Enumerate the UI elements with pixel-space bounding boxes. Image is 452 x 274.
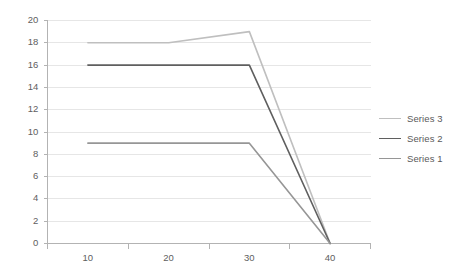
legend-label: Series 3 <box>407 113 443 124</box>
series-line-series-3 <box>88 32 330 244</box>
y-axis-tick-label: 18 <box>15 36 39 47</box>
x-axis-ticks <box>48 244 371 249</box>
y-axis-tick-label: 20 <box>15 14 39 25</box>
y-axis-tick-label: 10 <box>15 126 39 137</box>
y-axis-tick-label: 16 <box>15 59 39 70</box>
y-axis-tick-label: 0 <box>15 237 39 248</box>
x-axis-tick-label: 30 <box>229 252 269 263</box>
x-axis-tick-label: 10 <box>68 252 108 263</box>
legend-swatch-icon <box>379 118 401 119</box>
legend-item-series-1[interactable]: Series 1 <box>379 148 449 168</box>
series-lines <box>88 32 330 244</box>
y-axis-ticks <box>44 21 48 244</box>
y-axis-tick-label: 8 <box>15 148 39 159</box>
legend-swatch-icon <box>379 158 401 159</box>
x-axis-tick-label: 40 <box>310 252 350 263</box>
legend-label: Series 1 <box>407 153 443 164</box>
y-axis-tick-label: 2 <box>15 215 39 226</box>
y-axis-tick-label: 6 <box>15 170 39 181</box>
y-axis-tick-label: 14 <box>15 81 39 92</box>
line-chart: 02468101214161820 10203040 Series 3Serie… <box>0 0 452 274</box>
legend-item-series-3[interactable]: Series 3 <box>379 108 449 128</box>
legend-swatch-icon <box>379 138 401 139</box>
y-axis-tick-label: 4 <box>15 192 39 203</box>
y-axis-tick-label: 12 <box>15 103 39 114</box>
series-line-series-1 <box>88 143 330 243</box>
gridlines <box>48 21 371 244</box>
chart-legend: Series 3Series 2Series 1 <box>379 108 449 168</box>
x-axis-tick-label: 20 <box>149 252 189 263</box>
legend-label: Series 2 <box>407 133 443 144</box>
legend-item-series-2[interactable]: Series 2 <box>379 128 449 148</box>
